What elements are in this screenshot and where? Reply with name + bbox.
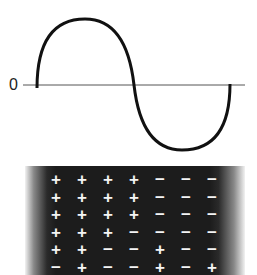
minus-charge-icon: −: [173, 171, 199, 189]
plus-charge-icon: +: [69, 224, 95, 242]
plus-charge-icon: +: [69, 241, 95, 259]
plus-charge-icon: +: [121, 189, 147, 207]
plus-charge-icon: +: [69, 259, 95, 275]
minus-charge-icon: −: [199, 171, 225, 189]
minus-charge-icon: −: [147, 171, 173, 189]
minus-charge-icon: −: [95, 259, 121, 275]
minus-charge-icon: −: [199, 189, 225, 207]
minus-charge-icon: −: [121, 259, 147, 275]
minus-charge-icon: −: [147, 206, 173, 224]
minus-charge-icon: −: [173, 224, 199, 242]
minus-charge-icon: −: [173, 189, 199, 207]
minus-charge-icon: −: [199, 224, 225, 242]
minus-charge-icon: −: [147, 224, 173, 242]
minus-charge-icon: −: [121, 224, 147, 242]
plus-charge-icon: +: [147, 241, 173, 259]
plus-charge-icon: +: [95, 224, 121, 242]
plus-charge-icon: +: [95, 206, 121, 224]
plus-charge-icon: +: [43, 189, 69, 207]
plus-charge-icon: +: [95, 189, 121, 207]
minus-charge-icon: −: [95, 241, 121, 259]
plus-charge-icon: +: [43, 241, 69, 259]
plus-charge-icon: +: [121, 206, 147, 224]
minus-charge-icon: −: [199, 206, 225, 224]
plus-charge-icon: +: [147, 259, 173, 275]
charge-grid: ++++−−−++++−−−++++−−−+++−−−−++−−+−−−+−−+…: [43, 171, 227, 275]
plus-charge-icon: +: [95, 171, 121, 189]
minus-charge-icon: −: [147, 189, 173, 207]
sine-wave-plot: [0, 0, 257, 160]
plus-charge-icon: +: [69, 189, 95, 207]
plus-charge-icon: +: [199, 259, 225, 275]
plus-charge-icon: +: [43, 224, 69, 242]
plus-charge-icon: +: [69, 171, 95, 189]
plus-charge-icon: +: [121, 171, 147, 189]
zero-label: 0: [9, 76, 18, 94]
minus-charge-icon: −: [173, 206, 199, 224]
charge-panel: ++++−−−++++−−−++++−−−+++−−−−++−−+−−−+−−+…: [25, 166, 245, 275]
minus-charge-icon: −: [173, 241, 199, 259]
minus-charge-icon: −: [43, 259, 69, 275]
minus-charge-icon: −: [173, 259, 199, 275]
minus-charge-icon: −: [121, 241, 147, 259]
plus-charge-icon: +: [43, 206, 69, 224]
plus-charge-icon: +: [43, 171, 69, 189]
plus-charge-icon: +: [69, 206, 95, 224]
minus-charge-icon: −: [199, 241, 225, 259]
